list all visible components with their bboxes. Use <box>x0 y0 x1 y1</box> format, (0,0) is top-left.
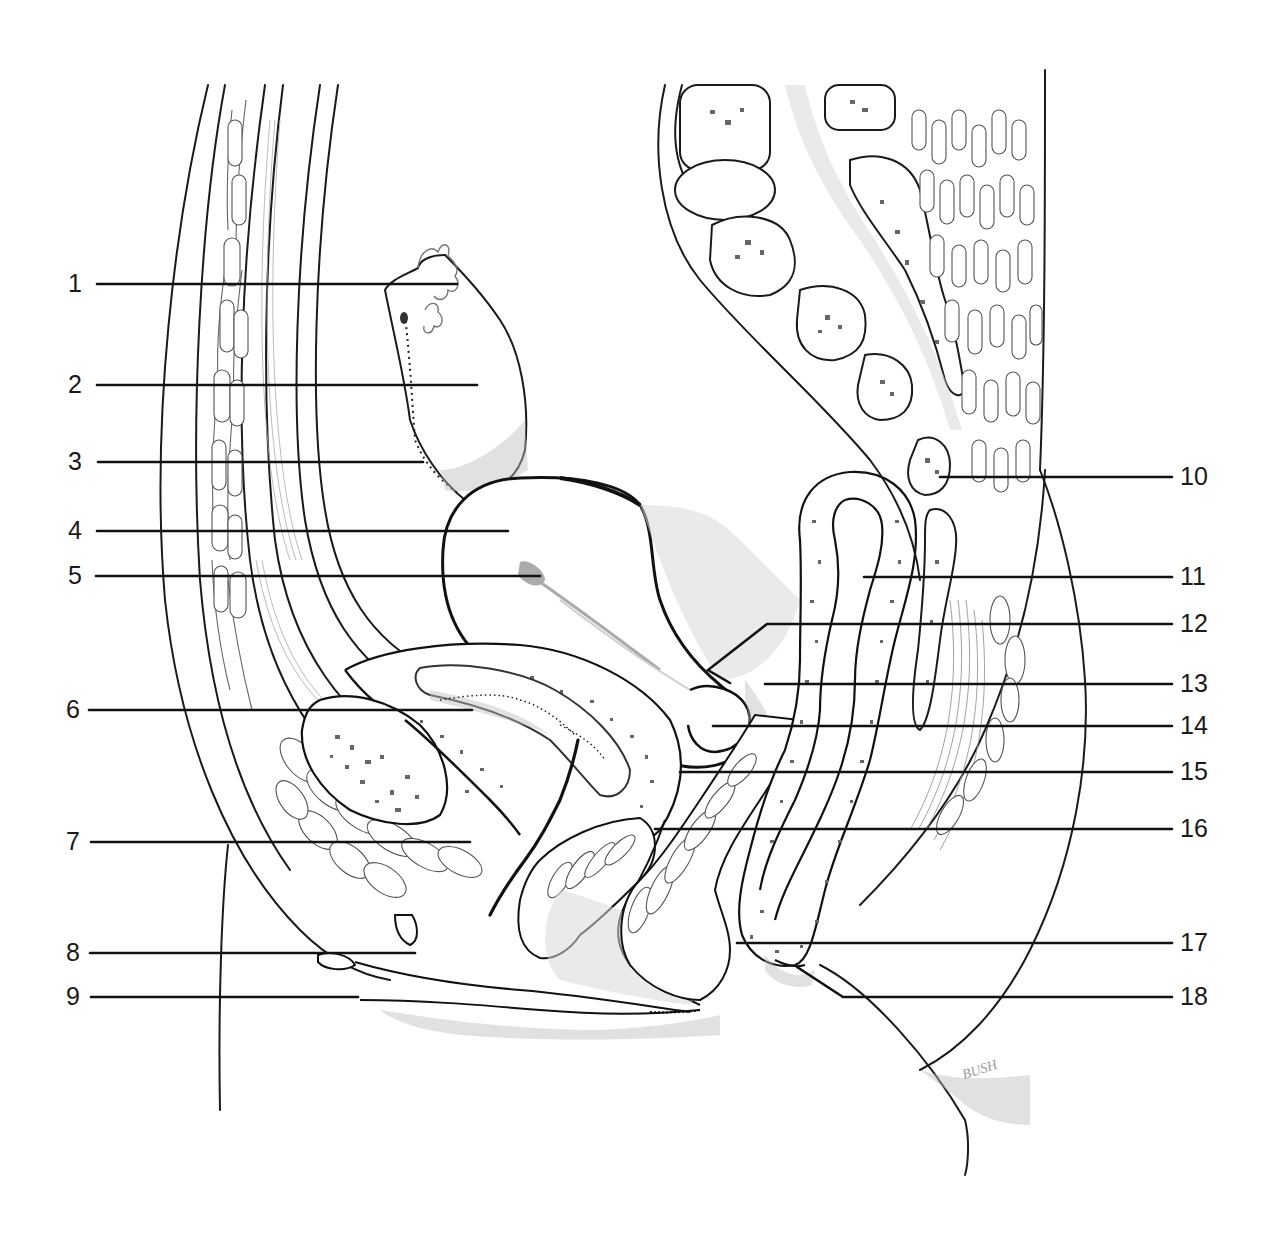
label-17: 17 <box>1180 930 1230 955</box>
label-4: 4 <box>42 518 82 543</box>
label-14: 14 <box>1180 713 1230 738</box>
label-10: 10 <box>1180 464 1230 489</box>
label-18: 18 <box>1180 984 1230 1009</box>
label-1: 1 <box>42 271 82 296</box>
pelvis-sagittal-illustration <box>0 0 1275 1234</box>
label-12: 12 <box>1180 611 1230 636</box>
label-11: 11 <box>1180 564 1230 589</box>
label-3: 3 <box>42 449 82 474</box>
label-6: 6 <box>40 697 80 722</box>
label-8: 8 <box>40 940 80 965</box>
label-7: 7 <box>40 829 80 854</box>
label-9: 9 <box>40 984 80 1009</box>
label-5: 5 <box>42 563 82 588</box>
label-2: 2 <box>42 372 82 397</box>
label-13: 13 <box>1180 671 1230 696</box>
label-16: 16 <box>1180 816 1230 841</box>
label-15: 15 <box>1180 759 1230 784</box>
